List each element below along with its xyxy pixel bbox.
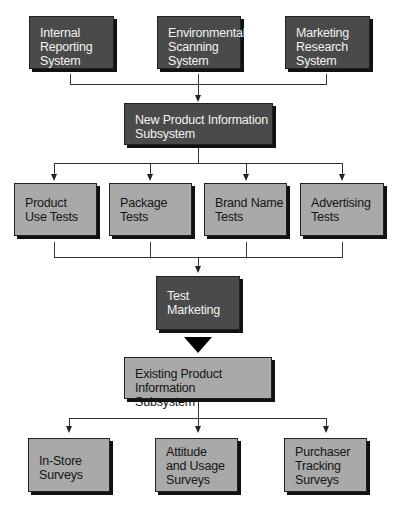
box-label: Advertising Tests — [311, 196, 383, 224]
arrow-down-icon — [243, 174, 249, 181]
new-product-information-subsystem-box: New Product Information Subsystem — [124, 103, 273, 145]
brand-name-tests-box: Brand Name Tests — [204, 183, 287, 236]
existing-product-information-subsystem-box: Existing Product Information Subsystem — [124, 357, 272, 399]
box-label: Internal Reporting System — [40, 26, 113, 68]
connector-line — [69, 418, 327, 419]
arrow-down-icon — [195, 95, 201, 102]
box-label: Brand Name Tests — [215, 196, 286, 224]
connector-line — [198, 148, 199, 163]
connector-line — [70, 74, 71, 84]
box-label: Package Tests — [120, 196, 191, 224]
marketing-research-system-box: Marketing Research System — [285, 16, 370, 69]
attitude-and-usage-surveys-box: Attitude and Usage Surveys — [155, 438, 238, 492]
environmental-scanning-system-box: Environmental Scanning System — [157, 16, 241, 69]
box-label: New Product Information Subsystem — [135, 113, 272, 141]
large-arrow-down-icon — [184, 337, 212, 353]
arrow-down-icon — [147, 174, 153, 181]
arrow-down-icon — [339, 174, 345, 181]
box-label: Purchaser Tracking Surveys — [295, 445, 366, 487]
connector-line — [150, 242, 151, 257]
connector-line — [54, 242, 55, 257]
connector-line — [326, 74, 327, 84]
connector-line — [198, 74, 199, 96]
arrow-down-icon — [195, 426, 201, 433]
arrow-down-icon — [51, 174, 57, 181]
in-store-surveys-box: In-Store Surveys — [28, 438, 110, 492]
test-marketing-box: Test Marketing — [156, 276, 240, 330]
arrow-down-icon — [323, 426, 329, 433]
box-label: Product Use Tests — [25, 196, 96, 224]
connector-line — [246, 242, 247, 257]
product-use-tests-box: Product Use Tests — [14, 183, 97, 236]
package-tests-box: Package Tests — [109, 183, 192, 236]
box-label: Marketing Research System — [296, 26, 369, 68]
box-label: Attitude and Usage Surveys — [166, 445, 237, 487]
box-label: Test Marketing — [167, 289, 239, 317]
arrow-down-icon — [66, 426, 72, 433]
purchaser-tracking-surveys-box: Purchaser Tracking Surveys — [284, 438, 367, 492]
box-label: Existing Product Information Subsystem — [135, 367, 271, 409]
box-label: In-Store Surveys — [39, 454, 109, 482]
connector-line — [54, 163, 343, 164]
connector-line — [342, 242, 343, 257]
box-label: Environmental Scanning System — [168, 26, 240, 68]
connector-line — [198, 402, 199, 427]
internal-reporting-system-box: Internal Reporting System — [29, 16, 114, 69]
advertising-tests-box: Advertising Tests — [300, 183, 384, 236]
arrow-down-icon — [195, 266, 201, 273]
